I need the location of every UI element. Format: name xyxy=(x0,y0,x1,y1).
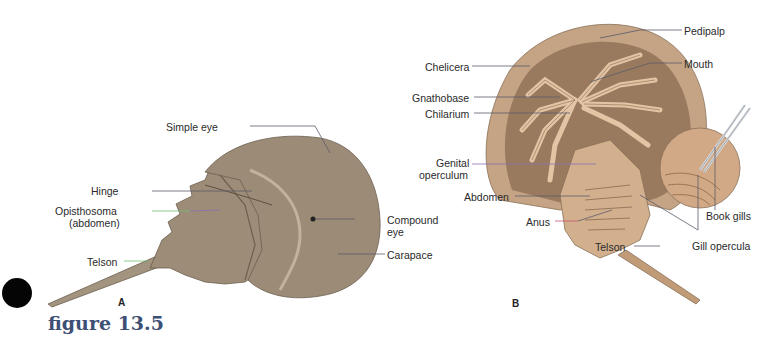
figure-caption: figure 13.5 xyxy=(48,312,164,334)
label-book-gills: Book gills xyxy=(706,210,751,222)
panel-label-a: A xyxy=(118,297,125,308)
label-genital: Genital xyxy=(436,157,469,169)
label-gill-opercula: Gill opercula xyxy=(692,240,750,252)
label-abdomen-b: Abdomen xyxy=(464,191,509,203)
label-chelicera: Chelicera xyxy=(425,61,469,73)
label-simple-eye: Simple eye xyxy=(166,121,218,133)
label-telson-a: Telson xyxy=(87,256,117,268)
label-opisthosoma: Opisthosoma xyxy=(55,205,117,217)
bullet-marker-icon xyxy=(2,278,32,308)
label-anus: Anus xyxy=(526,216,550,228)
compound-eye-dot xyxy=(311,217,316,222)
label-telson-b: Telson xyxy=(595,241,625,253)
illustration xyxy=(0,0,772,342)
label-operculum: operculum xyxy=(419,169,468,181)
telson-b-shape xyxy=(618,250,700,304)
label-pedipalp: Pedipalp xyxy=(684,25,725,37)
label-mouth: Mouth xyxy=(684,58,713,70)
label-carapace: Carapace xyxy=(387,249,433,261)
panel-label-b: B xyxy=(512,298,519,309)
label-gnathobase: Gnathobase xyxy=(412,92,469,104)
label-chilarium: Chilarium xyxy=(425,108,469,120)
label-hinge: Hinge xyxy=(91,185,118,197)
figure: Simple eye Hinge Opisthosoma (abdomen) T… xyxy=(0,0,772,342)
label-compound-eye: Compound xyxy=(387,214,438,226)
label-compound-eye-2: eye xyxy=(387,226,404,238)
label-abdomen-parenthetical: (abdomen) xyxy=(69,217,120,229)
